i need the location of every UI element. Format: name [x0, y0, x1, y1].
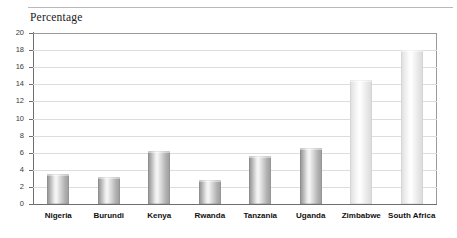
y-tick-label-14: 14	[2, 80, 24, 88]
bar-cap	[350, 80, 372, 82]
y-tick-18	[29, 50, 33, 51]
bar-cap	[199, 180, 221, 182]
chart-title: Percentage	[30, 11, 82, 23]
y-tick-2	[29, 187, 33, 188]
y-tick-label-16: 16	[2, 63, 24, 71]
gridline-8	[33, 136, 437, 137]
percentage-bar-chart: Percentage 02468101214161820 NigeriaBuru…	[0, 0, 457, 238]
gridline-20	[33, 33, 437, 34]
gridline-10	[33, 119, 437, 120]
gridline-18	[33, 50, 437, 51]
y-tick-16	[29, 67, 33, 68]
y-tick-label-10: 10	[2, 115, 24, 123]
y-tick-label-12: 12	[2, 97, 24, 105]
bar-burundi	[98, 177, 120, 204]
gridline-14	[33, 84, 437, 85]
bar-cap	[98, 177, 120, 179]
bar-cap	[148, 151, 170, 153]
bar-nigeria	[47, 174, 69, 204]
y-tick-8	[29, 136, 33, 137]
y-tick-label-6: 6	[2, 149, 24, 157]
bar-uganda	[300, 148, 322, 204]
bar-cap	[300, 148, 322, 150]
bar-cap	[249, 156, 271, 158]
header-divider	[28, 7, 453, 8]
y-tick-label-20: 20	[2, 29, 24, 37]
bar-south-africa	[401, 50, 423, 204]
bar-cap	[47, 174, 69, 176]
bar-rwanda	[199, 180, 221, 204]
gridline-2	[33, 187, 437, 188]
y-tick-20	[29, 33, 33, 34]
gridline-12	[33, 101, 437, 102]
y-tick-6	[29, 153, 33, 154]
bar-tanzania	[249, 156, 271, 204]
gridline-4	[33, 170, 437, 171]
gridline-6	[33, 153, 437, 154]
x-label-south-africa: South Africa	[362, 212, 457, 220]
bar-kenya	[148, 151, 170, 204]
bar-zimbabwe	[350, 80, 372, 204]
y-tick-14	[29, 84, 33, 85]
plot-area	[33, 33, 437, 204]
y-tick-label-2: 2	[2, 183, 24, 191]
bar-cap	[401, 50, 423, 52]
gridline-16	[33, 67, 437, 68]
x-axis-line	[33, 204, 437, 205]
y-tick-0	[29, 204, 33, 205]
y-tick-label-0: 0	[2, 200, 24, 208]
y-tick-10	[29, 119, 33, 120]
y-tick-label-18: 18	[2, 46, 24, 54]
y-tick-12	[29, 101, 33, 102]
y-tick-label-4: 4	[2, 166, 24, 174]
y-tick-4	[29, 170, 33, 171]
y-tick-label-8: 8	[2, 132, 24, 140]
